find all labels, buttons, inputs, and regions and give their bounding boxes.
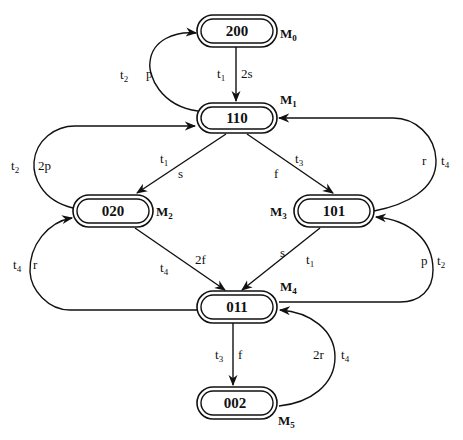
marking-label: M5	[278, 413, 295, 430]
edge-m2-m4: t4 2f	[135, 228, 225, 290]
edge-weight: 2r	[313, 347, 325, 362]
node-label: 020	[102, 203, 125, 219]
marking-label: M1	[280, 92, 297, 109]
edge-weight: 2p	[38, 158, 51, 173]
edge-weight: p	[146, 66, 153, 81]
edge-weight: r	[33, 257, 38, 272]
edge-m0-m1: t1 2s	[217, 47, 253, 101]
edge-weight: 2f	[195, 252, 207, 267]
edge-weight: s	[280, 245, 285, 260]
edge-transition: t1	[217, 66, 225, 83]
edge-transition: t4	[13, 257, 22, 274]
edge-m4-m3: p t2	[279, 217, 445, 302]
marking-label: M0	[280, 26, 297, 43]
edge-transition: t3	[295, 151, 304, 168]
edge-weight: s	[178, 166, 183, 181]
node-m1: 110 M1	[197, 92, 297, 133]
edge-weight: f	[274, 166, 279, 181]
edge-m5-m4: 2r t4	[279, 310, 350, 406]
marking-label: M2	[156, 204, 173, 221]
node-label: 110	[226, 110, 248, 126]
node-label: 011	[226, 299, 248, 315]
edge-transition: t4	[341, 347, 350, 364]
edge-weight: f	[238, 347, 243, 362]
node-m0: 200 M0	[197, 15, 297, 47]
edge-m1-m0: t2 p	[120, 33, 198, 111]
marking-label: M3	[270, 204, 287, 221]
edge-transition: t4	[441, 153, 450, 170]
node-m2: 020 M2	[73, 195, 173, 227]
reachability-graph: t1 2s t2 p t1 s t2 2p t3 f r t4 t4 2f t	[0, 0, 463, 440]
edge-transition: t2	[437, 253, 445, 270]
edge-transition: t1	[306, 252, 314, 269]
marking-label: M4	[280, 279, 297, 296]
edge-transition: t3	[215, 347, 224, 364]
edge-weight: 2s	[241, 66, 253, 81]
edge-transition: t2	[120, 67, 128, 84]
node-label: 002	[224, 395, 247, 411]
edge-weight: r	[422, 153, 427, 168]
edge-m1-m2: t1 s	[137, 134, 226, 193]
node-label: 200	[226, 23, 249, 39]
edge-weight: p	[421, 253, 428, 268]
edge-transition: t2	[11, 158, 19, 175]
edge-m4-m5: t3 f	[215, 323, 243, 385]
node-label: 101	[323, 203, 346, 219]
edge-m4-m2: t4 r	[13, 218, 197, 310]
edge-m1-m3: t3 f	[247, 134, 333, 193]
node-m3: 101 M3	[270, 195, 374, 227]
edge-transition: t4	[160, 260, 169, 277]
edge-transition: t1	[160, 151, 168, 168]
node-m5: 002 M5	[197, 387, 295, 430]
